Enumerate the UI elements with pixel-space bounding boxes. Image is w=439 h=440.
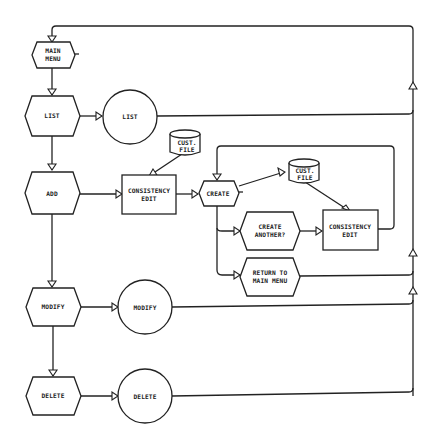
arrow-up-icon <box>409 82 417 89</box>
node-delete-process[interactable]: DELETE <box>118 369 172 423</box>
return-menu-line <box>300 271 413 276</box>
create-to-file2 <box>239 172 284 186</box>
node-create[interactable]: CREATE <box>199 181 239 206</box>
node-return-main-menu[interactable]: RETURN TO MAIN MENU <box>240 258 300 296</box>
arrow-right-icon <box>192 190 198 198</box>
arrow-right-icon <box>112 392 118 400</box>
arrow-down-icon <box>48 164 56 170</box>
node-label: CUST. <box>177 139 196 146</box>
node-label: EDIT <box>342 231 357 238</box>
node-modify-option[interactable]: MODIFY <box>26 288 81 326</box>
node-label: CREATE <box>207 190 230 197</box>
node-main-menu[interactable]: MAIN MENU <box>32 42 75 68</box>
node-list-option[interactable]: LIST <box>25 96 80 136</box>
node-label: CONSISTENCY <box>329 223 371 230</box>
node-label: MODIFY <box>42 303 65 310</box>
node-label: MAIN MENU <box>253 277 288 284</box>
arrow-right-icon <box>96 112 102 120</box>
node-consistency-edit-1[interactable]: CONSISTENCY EDIT <box>122 175 176 214</box>
arrow-down-icon <box>48 89 56 95</box>
arrow-right-icon <box>234 227 240 235</box>
node-cust-file-1[interactable]: CUST. FILE <box>170 130 200 155</box>
arrow-diag-icon <box>278 168 285 176</box>
modify-return-line <box>172 300 413 307</box>
arrow-down-icon <box>48 281 56 287</box>
node-delete-option[interactable]: DELETE <box>26 377 81 415</box>
node-label: CONSISTENCY <box>128 187 170 194</box>
create-branch <box>217 205 240 275</box>
node-label: MENU <box>45 55 60 62</box>
arrow-up-icon <box>409 249 417 256</box>
node-label: DELETE <box>134 393 157 400</box>
node-label: LIST <box>44 112 59 119</box>
node-label: MODIFY <box>134 304 157 311</box>
node-label: CREATE <box>259 223 282 230</box>
node-consistency-edit-2[interactable]: CONSISTENCY EDIT <box>323 210 378 250</box>
file1-to-edit1 <box>152 154 182 174</box>
node-label: DELETE <box>42 392 65 399</box>
node-modify-process[interactable]: MODIFY <box>118 280 172 334</box>
arrow-down-icon <box>49 370 57 376</box>
arrow-right-icon <box>316 227 322 235</box>
arrow-right-icon <box>116 190 122 198</box>
node-label: MAIN <box>45 47 60 54</box>
arrow-right-icon <box>112 303 118 311</box>
node-cust-file-2[interactable]: CUST. FILE <box>289 159 319 183</box>
node-label: FILE <box>179 146 194 153</box>
node-label: LIST <box>122 113 137 120</box>
delete-return-line <box>172 388 413 396</box>
node-label: FILE <box>297 174 312 181</box>
arrow-up-icon <box>409 287 417 294</box>
node-add-option[interactable]: ADD <box>25 172 80 214</box>
arrow-down-icon <box>48 36 56 42</box>
list-return-line <box>157 110 413 116</box>
node-label: RETURN TO <box>253 269 288 276</box>
node-list-process[interactable]: LIST <box>103 90 157 144</box>
node-create-another[interactable]: CREATE ANOTHER? <box>240 212 300 250</box>
arrow-right-icon <box>234 271 240 279</box>
node-label: EDIT <box>141 195 156 202</box>
flowchart: MAIN MENU LIST LIST ADD CUST. FILE CONSI… <box>0 0 439 440</box>
node-label: CUST. <box>295 167 314 174</box>
node-label: ANOTHER? <box>255 231 286 238</box>
file2-to-edit2 <box>302 180 348 210</box>
node-label: ADD <box>46 190 58 197</box>
arrow-down-icon <box>213 174 221 180</box>
